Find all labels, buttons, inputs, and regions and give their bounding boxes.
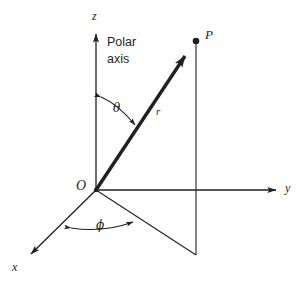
polar-axis-label-line2: axis (107, 51, 129, 67)
y-axis-label: y (285, 182, 290, 196)
point-P-marker (193, 38, 200, 45)
origin-marker (94, 188, 98, 192)
spherical-coordinates-diagram: z y x O P r θ ϕ Polar axis (0, 0, 299, 285)
r-length-label: r (156, 105, 160, 118)
projection-line-origin-to-vertex (96, 190, 196, 255)
theta-angle-label: θ (113, 102, 120, 116)
phi-angle-label: ϕ (96, 219, 104, 233)
x-axis-label: x (12, 261, 17, 275)
point-P-label: P (205, 28, 213, 43)
x-axis-line (31, 190, 96, 254)
z-axis-label: z (92, 10, 97, 24)
polar-axis-label-line1: Polar (107, 34, 136, 50)
diagram-canvas (0, 0, 299, 285)
origin-label: O (76, 178, 86, 194)
r-vector (96, 56, 185, 190)
